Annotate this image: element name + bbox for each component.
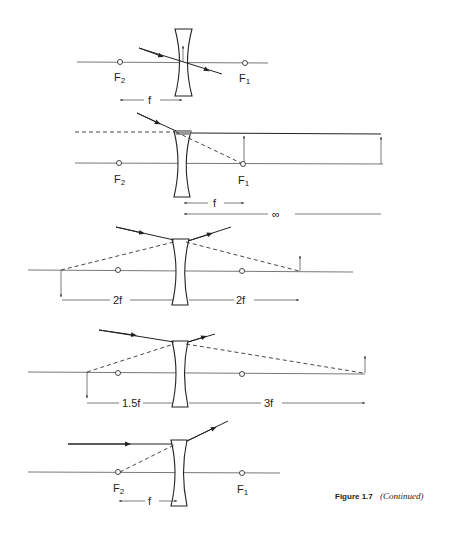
virtual-ray-right	[186, 344, 363, 373]
focal-point-left	[116, 371, 121, 376]
focal-point-f1	[240, 471, 245, 476]
dimension-f: f	[148, 94, 152, 106]
panel-5: F2 F1 f	[28, 421, 280, 507]
dimension-3f: 3f	[264, 397, 274, 409]
focal-label-f1: F1	[238, 174, 250, 188]
virtual-ray-left	[87, 344, 174, 372]
focal-label-f2: F2	[114, 173, 126, 187]
optical-axis	[28, 270, 353, 272]
dimension-1-5f: 1.5f	[122, 397, 141, 409]
virtual-ray-left	[61, 242, 174, 270]
optical-axis	[77, 62, 268, 63]
panel-1: F2 F1 f	[77, 29, 268, 106]
focal-point-f2	[116, 470, 121, 475]
focal-point-f1	[243, 61, 248, 66]
dimension-2f-right: 2f	[236, 294, 246, 306]
dimension-infinity: ∞	[272, 208, 280, 220]
diverging-lens	[172, 239, 189, 305]
diverging-lens	[172, 341, 188, 407]
diverging-lens-ray-diagrams: F2 F1 f F2 F1 f ∞	[0, 0, 463, 536]
focal-label-f2: F2	[113, 482, 125, 496]
caption-label: Figure 1.7	[335, 492, 373, 501]
panel-2: F2 F1 f ∞	[75, 113, 383, 220]
focal-point-left	[116, 268, 121, 273]
focal-point-right	[240, 269, 245, 274]
focal-point-f1	[241, 162, 246, 167]
diverging-lens	[174, 131, 191, 197]
focal-point-f2	[118, 60, 123, 65]
caption-note: (Continued)	[380, 491, 424, 501]
focal-label-f1: F1	[239, 72, 251, 86]
virtual-ray-right	[186, 242, 299, 271]
focal-point-right	[240, 372, 245, 377]
optical-axis	[28, 372, 365, 374]
panel-4: 1.5f 3f	[28, 330, 365, 409]
focal-label-f1: F1	[237, 483, 249, 497]
focal-point-f2	[117, 161, 122, 166]
figure-caption: Figure 1.7 (Continued)	[335, 491, 424, 501]
dimension-2f-left: 2f	[113, 294, 123, 306]
parallel-emergent-ray	[191, 133, 381, 134]
virtual-ray-to-f2	[120, 445, 174, 472]
dimension-f: f	[213, 197, 217, 209]
dimension-f: f	[148, 495, 152, 507]
panel-3: 2f 2f	[28, 227, 353, 306]
focal-label-f2: F2	[114, 71, 126, 85]
